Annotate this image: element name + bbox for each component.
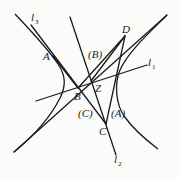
hyperbola-right-branch xyxy=(117,15,167,149)
line-label-l3: l 3 xyxy=(31,11,39,26)
region-label-C: (C) xyxy=(78,107,93,120)
point-label-D: D xyxy=(121,23,130,35)
line-l3 xyxy=(31,25,106,124)
region-label-A: (A) xyxy=(111,107,125,120)
svg-text:l: l xyxy=(148,56,151,68)
line-label-l1: l 1 xyxy=(148,56,156,71)
svg-text:l: l xyxy=(114,153,117,165)
segment-AB xyxy=(53,56,78,88)
diagram-canvas: A B C D Z (B) (C) (A) l 1 l 2 l 3 xyxy=(0,0,179,178)
point-label-Z: Z xyxy=(95,82,102,94)
svg-text:l: l xyxy=(31,11,34,23)
line-asymptote xyxy=(14,15,167,152)
point-label-C: C xyxy=(99,125,107,137)
point-label-A: A xyxy=(42,50,50,62)
svg-text:3: 3 xyxy=(35,18,39,26)
line-label-l2: l 2 xyxy=(114,153,122,168)
point-label-B: B xyxy=(74,90,81,102)
geometry-figure: A B C D Z (B) (C) (A) l 1 l 2 l 3 xyxy=(0,0,179,178)
region-label-B: (B) xyxy=(88,48,102,61)
svg-text:2: 2 xyxy=(118,160,122,168)
svg-text:1: 1 xyxy=(152,63,156,71)
